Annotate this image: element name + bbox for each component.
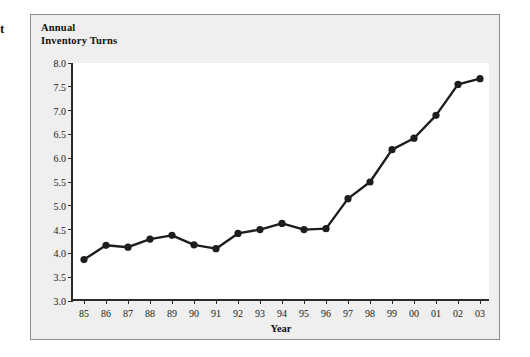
y-tick-6.5: 6.5 — [54, 129, 74, 140]
x-tick-95: 95 — [299, 299, 309, 319]
chart-caption: Annual Inventory Turns — [41, 21, 117, 47]
data-point-86 — [102, 242, 109, 249]
data-point-97 — [344, 195, 351, 202]
plot-area: 8.07.57.06.56.05.55.04.54.03.53.0 858687… — [71, 63, 489, 301]
data-point-00 — [410, 135, 417, 142]
y-tick-7.5: 7.5 — [54, 81, 74, 92]
chart-figure: t Annual Inventory Turns 8.07.57.06.56.0… — [0, 0, 530, 357]
x-tick-85: 85 — [79, 299, 89, 319]
x-tick-02: 02 — [453, 299, 463, 319]
y-tick-4.5: 4.5 — [54, 224, 74, 235]
data-point-93 — [256, 226, 263, 233]
y-tick-5.0: 5.0 — [54, 200, 74, 211]
x-tick-90: 90 — [189, 299, 199, 319]
data-point-88 — [146, 236, 153, 243]
data-point-87 — [124, 244, 131, 251]
x-tick-96: 96 — [321, 299, 331, 319]
x-tick-91: 91 — [211, 299, 221, 319]
x-tick-87: 87 — [123, 299, 133, 319]
chart-panel: Annual Inventory Turns 8.07.57.06.56.05.… — [30, 14, 500, 340]
y-tick-5.5: 5.5 — [54, 177, 74, 188]
data-point-91 — [212, 245, 219, 252]
y-tick-4.0: 4.0 — [54, 248, 74, 259]
data-point-03 — [476, 75, 483, 82]
data-point-99 — [388, 146, 395, 153]
data-point-92 — [234, 230, 241, 237]
data-point-02 — [454, 81, 461, 88]
y-tick-3.0: 3.0 — [54, 296, 74, 307]
y-tick-7.0: 7.0 — [54, 105, 74, 116]
caption-line-2: Inventory Turns — [41, 34, 117, 47]
x-tick-89: 89 — [167, 299, 177, 319]
y-tick-8.0: 8.0 — [54, 58, 74, 69]
x-tick-98: 98 — [365, 299, 375, 319]
data-point-96 — [322, 225, 329, 232]
data-point-95 — [300, 226, 307, 233]
x-tick-00: 00 — [409, 299, 419, 319]
data-point-90 — [190, 241, 197, 248]
data-point-85 — [80, 256, 87, 263]
x-tick-88: 88 — [145, 299, 155, 319]
y-tick-6.0: 6.0 — [54, 153, 74, 164]
x-tick-92: 92 — [233, 299, 243, 319]
x-tick-86: 86 — [101, 299, 111, 319]
data-point-94 — [278, 220, 285, 227]
data-series-line — [73, 63, 491, 301]
x-tick-94: 94 — [277, 299, 287, 319]
x-tick-99: 99 — [387, 299, 397, 319]
data-point-89 — [168, 232, 175, 239]
clipped-margin-text: t — [0, 22, 6, 36]
y-tick-3.5: 3.5 — [54, 272, 74, 283]
data-point-98 — [366, 178, 373, 185]
x-tick-03: 03 — [475, 299, 485, 319]
x-tick-01: 01 — [431, 299, 441, 319]
data-point-01 — [432, 112, 439, 119]
caption-line-1: Annual — [41, 21, 117, 34]
x-axis-title: Year — [73, 323, 489, 334]
x-tick-93: 93 — [255, 299, 265, 319]
x-tick-97: 97 — [343, 299, 353, 319]
